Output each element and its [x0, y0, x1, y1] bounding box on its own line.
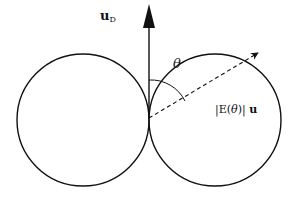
right-lobe	[149, 54, 281, 186]
dipole-axis-label: uD	[100, 8, 116, 24]
angle-label: θ	[173, 56, 181, 71]
field-unit-vector: u	[249, 103, 257, 116]
field-suffix: )|	[238, 103, 250, 116]
field-theta: θ	[231, 103, 238, 116]
diagram-graphics	[0, 0, 295, 203]
dipole-axis-arrowhead	[143, 4, 155, 28]
field-magnitude-label: |E(θ)| u	[215, 103, 257, 116]
left-lobe	[17, 54, 149, 186]
dipole-pattern-diagram: uD θ |E(θ)| u	[0, 0, 295, 203]
field-prefix: |E(	[215, 103, 231, 116]
dipole-axis-subscript: D	[109, 15, 115, 24]
angle-arc	[149, 80, 185, 101]
